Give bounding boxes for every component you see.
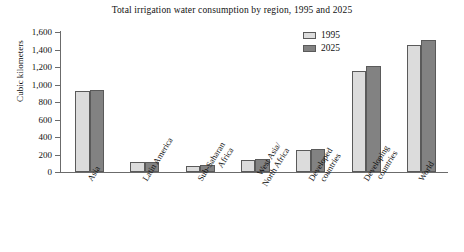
y-axis-tick-mark (55, 85, 60, 86)
y-axis-tick-mark (55, 155, 60, 156)
bar-chart: Total irrigation water consumption by re… (0, 0, 464, 252)
y-axis-tick-mark (55, 32, 60, 33)
bar-1995-world (407, 45, 422, 172)
bar-1995-developing-countries (352, 71, 367, 173)
bar-group (60, 32, 115, 172)
y-axis-tick-label: 1,000 (6, 80, 52, 90)
chart-legend: 19952025 (303, 29, 373, 55)
legend-swatch-icon (303, 32, 316, 39)
legend-item: 2025 (303, 42, 373, 54)
y-axis-tick-label: 600 (6, 115, 52, 125)
y-axis-tick-mark (55, 120, 60, 121)
bar-1995-asia (75, 91, 90, 172)
legend-label: 2025 (321, 43, 340, 53)
legend-swatch-icon (303, 45, 316, 52)
y-axis-tick-label: 1,200 (6, 62, 52, 72)
y-axis-tick-label: 1,400 (6, 45, 52, 55)
bar-2025-world (421, 40, 436, 172)
bar-1995-west-asia-north-africa (241, 160, 256, 172)
y-axis-tick-mark (55, 50, 60, 51)
y-axis-tick-mark (55, 137, 60, 138)
legend-label: 1995 (321, 30, 340, 40)
y-axis-tick-label: 800 (6, 97, 52, 107)
y-axis-tick-label: 0 (6, 167, 52, 177)
legend-item: 1995 (303, 29, 373, 41)
y-axis-tick-labels: 1,6001,4001,2001,0008006004002000 (0, 0, 52, 252)
y-axis-tick-label: 1,600 (6, 27, 52, 37)
bar-group (392, 32, 447, 172)
y-axis-tick-mark (55, 102, 60, 103)
x-axis-category-labels: AsiaLatin AmericaSub-Saharan AfricaWest … (60, 172, 447, 252)
chart-title: Total irrigation water consumption by re… (0, 5, 464, 15)
bar-1995-latin-america (130, 162, 145, 172)
bar-2025-asia (90, 90, 105, 172)
y-axis-tick-mark (55, 172, 60, 173)
bar-1995-developed-countries (296, 150, 311, 172)
y-axis-tick-label: 400 (6, 132, 52, 142)
y-axis-tick-mark (55, 67, 60, 68)
y-axis-tick-label: 200 (6, 150, 52, 160)
